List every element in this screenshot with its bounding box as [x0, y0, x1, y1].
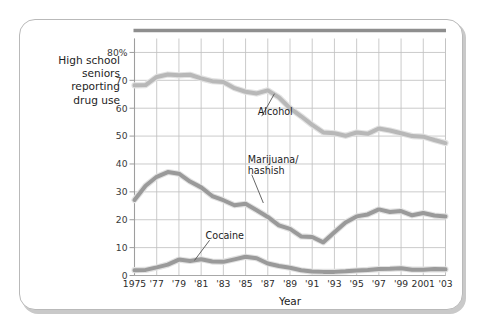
y-axis-title-line: High school: [58, 54, 120, 66]
drug-use-line-chart: 01020304050607080% 1975'77'79'81'83'85'8…: [0, 0, 485, 331]
y-tick-label: 50: [116, 130, 128, 141]
y-axis-title-line: reporting: [71, 80, 120, 92]
x-tick-label: '91: [305, 278, 319, 289]
figure-root: 01020304050607080% 1975'77'79'81'83'85'8…: [0, 0, 485, 331]
annotation-label: hashish: [248, 165, 285, 176]
y-tick-label: 30: [116, 186, 128, 197]
x-tick-label: '95: [350, 278, 364, 289]
x-tick-label: '81: [194, 278, 208, 289]
annotation-label: Cocaine: [206, 230, 244, 241]
x-tick-label: '87: [261, 278, 275, 289]
x-tick-label: '99: [394, 278, 408, 289]
x-tick-label: '93: [327, 278, 341, 289]
x-tick-label: 2001: [412, 278, 435, 289]
x-tick-label: '83: [216, 278, 230, 289]
annotation-label: Alcohol: [258, 106, 293, 117]
annotation-leader-line: [252, 175, 264, 203]
y-tick-label: 10: [116, 242, 128, 253]
x-tick-label: '85: [238, 278, 252, 289]
annotation-marijuana-hashish: Marijuana/hashish: [248, 154, 299, 203]
x-tick-label: '97: [372, 278, 386, 289]
y-axis-title-line: seniors: [82, 67, 120, 79]
series-annotations: AlcoholMarijuana/hashishCocaine: [194, 94, 299, 261]
x-tick-label: 1975: [123, 278, 147, 289]
y-axis-title-line: drug use: [73, 94, 120, 106]
x-axis-title-text: Year: [278, 295, 302, 307]
x-tick-label: '77: [150, 278, 164, 289]
x-axis-tick-labels: 1975'77'79'81'83'85'87'89'91'93'95'97'99…: [123, 278, 453, 289]
x-tick-label: '03: [438, 278, 452, 289]
x-tick-label: '79: [172, 278, 186, 289]
y-tick-label: 20: [116, 214, 128, 225]
annotation-label: Marijuana/: [248, 154, 299, 165]
x-axis-title: Year: [278, 295, 302, 307]
x-tick-label: '89: [283, 278, 297, 289]
y-axis-title: High schoolseniorsreportingdrug use: [58, 54, 120, 106]
y-tick-label: 40: [116, 158, 128, 169]
